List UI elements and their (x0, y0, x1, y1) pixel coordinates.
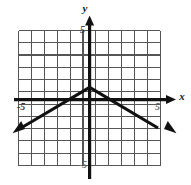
y-axis-tick-5: 5 (80, 24, 85, 35)
coordinate-plane-chart: y x 5 -5 -5 5 (0, 0, 191, 185)
x-axis-tick-minus-5: -5 (17, 101, 25, 112)
y-axis-label: y (81, 2, 88, 14)
x-axis-label: x (178, 90, 185, 102)
x-axis-tick-5: 5 (155, 101, 160, 112)
graph-figure: y x 5 -5 -5 5 (0, 0, 191, 185)
y-axis-tick-minus-5: -5 (79, 159, 87, 170)
